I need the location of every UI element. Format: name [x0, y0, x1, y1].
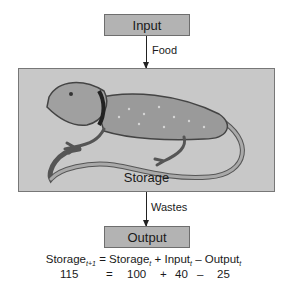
output-box: Output	[104, 226, 190, 248]
eq-plus: +	[155, 253, 162, 265]
value-storage-next: 115	[60, 268, 78, 280]
value-output: 25	[217, 268, 230, 280]
equation-values: 115 = 100 + 40 – 25	[0, 268, 287, 282]
eq-term3: Output	[205, 253, 240, 265]
value-input: 40	[175, 268, 188, 280]
eq-minus: –	[195, 253, 201, 265]
eq-term2-sub: t	[190, 260, 192, 267]
storage-equation: Storaget+1 = Storaget + Inputt – Outputt	[0, 253, 287, 267]
eq-term1: Storage	[109, 253, 149, 265]
storage-label: Storage	[19, 170, 274, 185]
output-label: Output	[127, 230, 166, 245]
eq-term2: Input	[164, 253, 190, 265]
eq-lhs-sub: t+1	[86, 260, 96, 267]
value-plus: +	[160, 268, 167, 280]
value-equals: =	[106, 268, 113, 280]
value-minus: –	[197, 268, 203, 280]
food-arrow	[146, 36, 147, 68]
input-label: Input	[133, 18, 162, 33]
input-box: Input	[104, 14, 190, 36]
wastes-arrow	[146, 192, 147, 226]
eq-term3-sub: t	[239, 260, 241, 267]
eq-lhs: Storage	[46, 253, 86, 265]
storage-box: Storage	[18, 68, 275, 192]
value-storage: 100	[127, 268, 146, 280]
wastes-label: Wastes	[151, 201, 187, 213]
food-label: Food	[152, 44, 177, 56]
eq-term1-sub: t	[149, 260, 151, 267]
eq-equals: =	[99, 253, 106, 265]
